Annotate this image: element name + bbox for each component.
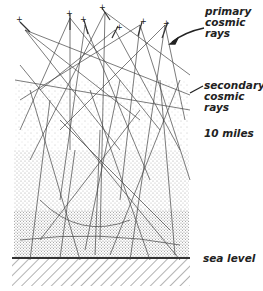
primary-cosmic-rays-label: primary cosmic rays bbox=[205, 6, 251, 39]
svg-text:+: + bbox=[163, 19, 170, 28]
ground-hatch bbox=[12, 258, 190, 286]
svg-text:+: + bbox=[80, 15, 87, 24]
altitude-label: 10 miles bbox=[204, 128, 254, 139]
svg-text:+: + bbox=[140, 17, 147, 26]
svg-text:+: + bbox=[16, 15, 23, 24]
cosmic-ray-diagram: + + + + + + + bbox=[0, 0, 263, 291]
svg-text:+: + bbox=[116, 23, 123, 32]
svg-text:+: + bbox=[99, 3, 106, 12]
sea-level-label: sea level bbox=[203, 253, 255, 264]
primary-ray-markers: + + + + + + + bbox=[16, 3, 170, 32]
secondary-cosmic-rays-label: secondary cosmic rays bbox=[204, 80, 263, 113]
svg-text:+: + bbox=[66, 9, 73, 18]
